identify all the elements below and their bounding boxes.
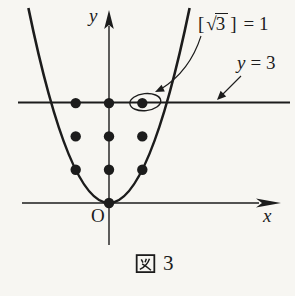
- line-y3-var: y: [237, 52, 245, 73]
- y3-annotation-arrow: [217, 76, 241, 100]
- figure-drawing: [0, 0, 295, 296]
- figure-3: y x O [√3]= 1 y= 3 3: [0, 0, 295, 296]
- figure-caption: 3: [135, 253, 174, 274]
- floor-sqrt3-value: = 1: [244, 13, 269, 34]
- lattice-dot: [71, 98, 81, 108]
- line-y3-value: = 3: [250, 52, 275, 73]
- sqrt-expression: √3: [206, 13, 228, 33]
- caption-kanji-zu-icon: [135, 253, 156, 274]
- lattice-dot: [71, 131, 81, 141]
- y-axis: [104, 10, 114, 245]
- close-bracket: ]: [228, 13, 238, 34]
- open-bracket: [: [196, 13, 206, 34]
- lattice-dot: [137, 131, 147, 141]
- lattice-dot: [104, 165, 114, 175]
- caption-number: 3: [163, 253, 174, 274]
- radicand: 3: [215, 13, 229, 33]
- sqrt3-arrowhead-icon: [155, 85, 165, 92]
- line-y3-label: y= 3: [237, 53, 275, 72]
- x-axis-label: x: [263, 206, 271, 225]
- lattice-dot: [137, 165, 147, 175]
- y-axis-label: y: [89, 6, 97, 25]
- lattice-dot: [137, 98, 147, 108]
- y3-arrow-line: [222, 76, 241, 95]
- x-axis: [22, 198, 281, 207]
- lattice-dot: [104, 131, 114, 141]
- lattice-dot: [104, 198, 114, 208]
- origin-label: O: [91, 206, 105, 225]
- lattice-dot: [104, 98, 114, 108]
- floor-sqrt3-label: [√3]= 1: [196, 13, 269, 33]
- lattice-dot: [71, 165, 81, 175]
